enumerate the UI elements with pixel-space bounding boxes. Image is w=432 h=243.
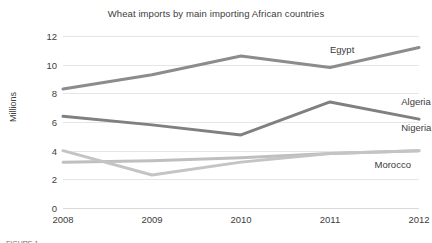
y-axis-tick: 8 — [11, 88, 57, 99]
y-axis-tick: 0 — [11, 203, 57, 214]
x-axis-tick: 2008 — [52, 214, 73, 225]
series-label-algeria: Algeria — [401, 96, 431, 107]
x-axis-tick: 2011 — [320, 214, 340, 225]
x-axis-tick: 2010 — [230, 214, 251, 225]
x-axis-tick: 2012 — [408, 214, 429, 225]
series-label-nigeria: Nigeria — [401, 122, 431, 133]
y-axis-tick: 6 — [11, 117, 57, 128]
y-axis-tick: 4 — [11, 145, 57, 156]
y-axis-tick: 10 — [11, 59, 57, 70]
x-axis-tick-labels: 20082009201020112012 — [63, 0, 419, 243]
series-label-egypt: Egypt — [330, 44, 354, 55]
y-axis-tick: 2 — [11, 174, 57, 185]
y-axis-tick: 12 — [11, 31, 57, 42]
series-label-morocco: Morocco — [375, 159, 411, 170]
chart-figure: Wheat imports by main importing African … — [0, 0, 432, 243]
y-axis-tick-labels: 024681012 — [0, 36, 57, 208]
x-axis-tick: 2009 — [141, 214, 162, 225]
